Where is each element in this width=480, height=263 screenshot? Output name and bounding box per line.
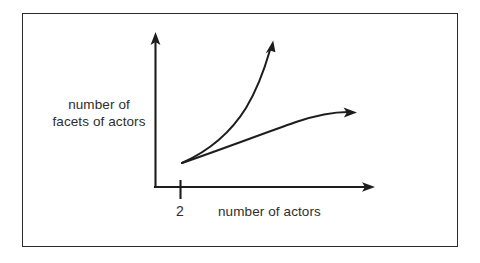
plot-canvas <box>0 0 480 263</box>
x-axis-label: number of actors <box>218 203 321 220</box>
x-axis-tick-label-2: 2 <box>170 203 190 220</box>
logarithmic-growth-curve <box>182 112 348 163</box>
exponential-growth-curve <box>182 50 270 163</box>
figure-root: number of facets of actors number of act… <box>0 0 480 263</box>
y-axis-label: number of facets of actors <box>42 96 156 130</box>
y-axis-label-line-1: number of <box>42 96 156 113</box>
y-axis-label-line-2: facets of actors <box>42 113 156 130</box>
